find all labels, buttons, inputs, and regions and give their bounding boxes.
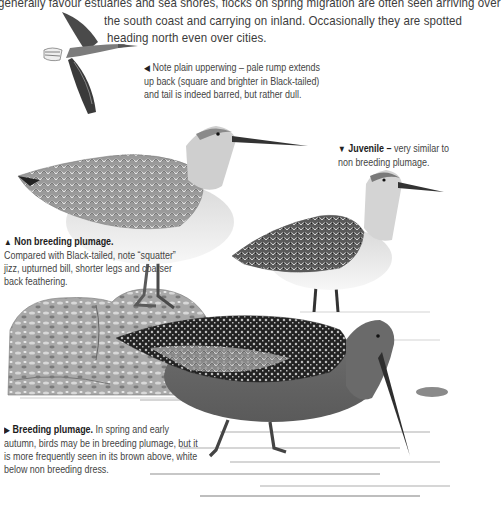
arrow-right-icon: ▶ — [4, 425, 10, 435]
caption-flight-text: Note plain upperwing – pale rump extends… — [144, 62, 320, 100]
juvenile-godwit — [232, 170, 444, 312]
caption-non-breeding-title: Non breeding plumage. — [14, 236, 113, 247]
caption-non-breeding-text: Compared with Black-tailed, note “squatt… — [4, 250, 176, 287]
caption-juvenile-title: Juvenile – — [348, 143, 391, 154]
caption-breeding: ▶Breeding plumage. In spring and early a… — [4, 423, 198, 476]
intro-text-line-2: the south coast and carrying on inland. … — [104, 12, 462, 29]
intro-text-line-1: generally favour estuaries and sea shore… — [0, 0, 501, 11]
caption-non-breeding: ▲Non breeding plumage. Compared with Bla… — [4, 235, 176, 288]
arrow-up-icon: ▲ — [4, 237, 12, 247]
intro-text-line-3: heading north even over cities. — [107, 29, 267, 46]
caption-flight: ◀Note plain upperwing – pale rump extend… — [144, 61, 326, 101]
caption-juvenile: ▼Juvenile – very similar to non breeding… — [338, 142, 460, 169]
small-rock — [416, 387, 448, 397]
arrow-left-icon: ◀ — [144, 63, 150, 73]
caption-breeding-title: Breeding plumage. — [13, 424, 93, 435]
arrow-down-icon: ▼ — [338, 144, 346, 154]
